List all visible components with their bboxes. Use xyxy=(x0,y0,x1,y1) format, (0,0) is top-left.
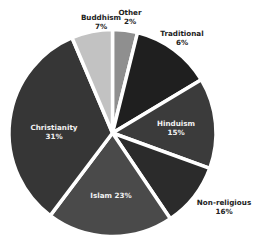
pie-chart: Buddhism 7% Other 2% Traditional 6% Hind… xyxy=(0,0,257,251)
label-christianity-pct: 31% xyxy=(45,132,62,141)
pie-slices xyxy=(9,30,216,237)
label-islam: Islam 23% xyxy=(90,191,131,200)
pie-chart-svg: Buddhism 7% Other 2% Traditional 6% Hind… xyxy=(0,0,257,251)
label-hinduism-name: Hinduism xyxy=(157,119,195,128)
label-non-religious-name: Non-religious xyxy=(197,198,251,207)
label-christianity-name: Christianity xyxy=(30,123,77,132)
label-non-religious-pct: 16% xyxy=(215,207,232,216)
label-traditional-name: Traditional xyxy=(160,29,203,38)
label-other-pct: 2% xyxy=(124,17,136,26)
label-traditional-pct: 6% xyxy=(176,38,188,47)
label-hinduism-pct: 15% xyxy=(167,128,184,137)
label-buddhism-name: Buddhism xyxy=(81,13,121,22)
label-buddhism-pct: 7% xyxy=(95,22,107,31)
label-other-name: Other xyxy=(118,8,142,17)
